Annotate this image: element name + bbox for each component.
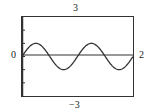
sine-curve (22, 43, 133, 69)
viewing-window (0, 0, 150, 112)
